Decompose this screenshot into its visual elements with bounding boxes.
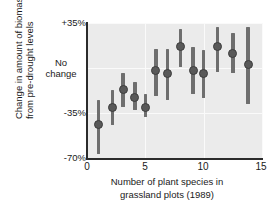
data-point <box>163 69 172 78</box>
y-tick-label-nochange-line-1: No <box>38 57 84 68</box>
plot-area <box>87 23 262 158</box>
x-axis-label-line-1: Number of plant species in <box>60 176 274 189</box>
data-point <box>213 42 222 51</box>
x-axis-label-line-2: grassland plots (1989) <box>60 189 274 202</box>
data-point <box>108 103 117 112</box>
data-point <box>199 69 208 78</box>
x-tick-label-10: 10 <box>191 161 215 172</box>
y-tick-label-35minus: -35% <box>40 108 86 118</box>
gridline-horizontal <box>87 68 262 69</box>
y-axis-label: Change in amount of biomass from pre-dro… <box>7 0 41 132</box>
y-axis-label-line-2: from pre-drought levels <box>24 0 35 119</box>
x-tick-label-5: 5 <box>133 161 157 172</box>
chart-figure: Change in amount of biomass from pre-dro… <box>0 0 274 214</box>
gridline-vertical <box>262 23 263 158</box>
data-point <box>176 42 185 51</box>
data-point <box>94 120 103 129</box>
data-point <box>141 103 150 112</box>
data-point <box>189 66 198 75</box>
y-tick-label-nochange-line-2: change <box>38 68 84 79</box>
x-axis-label: Number of plant species in grassland plo… <box>60 176 274 201</box>
x-tick-label-0: 0 <box>75 161 99 172</box>
data-point <box>119 85 128 94</box>
data-point <box>130 93 139 102</box>
gridline-vertical <box>145 23 146 158</box>
y-tick-label-35plus: +35% <box>40 18 86 28</box>
data-point <box>244 60 253 69</box>
data-point <box>151 66 160 75</box>
x-axis-line <box>86 158 263 160</box>
data-point <box>228 49 237 58</box>
y-axis-label-line-1: Change in amount of biomass <box>13 0 24 119</box>
y-axis-line <box>86 22 88 159</box>
gridline-horizontal <box>87 23 262 24</box>
x-tick-label-15: 15 <box>249 161 273 172</box>
